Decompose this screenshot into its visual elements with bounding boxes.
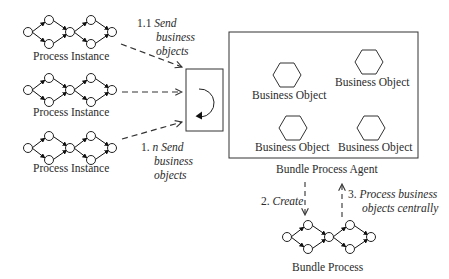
step-3-annotation: 3. Process business objects centrally bbox=[348, 187, 438, 215]
send-arrow-n bbox=[122, 122, 182, 139]
process-instance-label-2: Process Instance bbox=[33, 107, 109, 119]
step-1-n-annotation: 1. n Send business objects bbox=[141, 140, 193, 182]
process-instance-graph-2 bbox=[24, 74, 117, 107]
business-object-label-1: Business Object bbox=[252, 90, 326, 102]
bundle-process-label: Bundle Process bbox=[292, 262, 363, 274]
bundle-process-graph bbox=[283, 221, 376, 254]
step-1-1-annotation: 1.1 Send business objects bbox=[137, 16, 195, 58]
business-object-label-3: Business Object bbox=[255, 142, 329, 154]
process-instance-label-3: Process Instance bbox=[33, 163, 109, 175]
process-instance-graph-1 bbox=[24, 16, 117, 49]
agent-label: Bundle Process Agent bbox=[276, 164, 378, 176]
collector-box bbox=[186, 69, 223, 131]
process-instance-graph-3 bbox=[24, 132, 117, 165]
step-2-annotation: 2. Create bbox=[261, 194, 303, 208]
diagram-canvas bbox=[0, 0, 449, 279]
business-object-label-2: Business Object bbox=[335, 77, 409, 89]
step-1-1-number: 1.1 bbox=[137, 17, 151, 29]
business-object-label-4: Business Object bbox=[338, 142, 412, 154]
process-instance-label-1: Process Instance bbox=[33, 51, 109, 63]
